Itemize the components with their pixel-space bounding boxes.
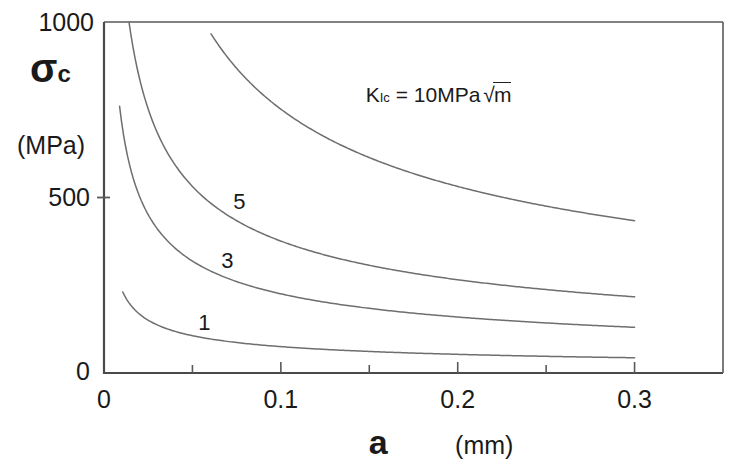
x-tick-label-0-1: 0.1	[263, 387, 298, 412]
y-tick-label-0: 0	[76, 359, 90, 384]
x-axis-unit: (mm)	[455, 433, 513, 458]
curve-k-5	[129, 22, 635, 297]
sqrt-radicand: m	[493, 82, 512, 106]
axis-spines	[104, 22, 723, 373]
kic-subscript: Ic	[380, 90, 390, 105]
y-tick-label-1000: 1000	[38, 10, 94, 35]
kic-annotation: KIc = 10MPa√m	[366, 84, 512, 105]
curve-label-5: 5	[233, 191, 245, 213]
x-tick-label-0: 0	[97, 387, 111, 412]
curve-label-3: 3	[221, 250, 233, 272]
chart-figure: 1000 500 0 σc (MPa) 0 0.1 0.2 0.3 a (mm)…	[0, 0, 739, 469]
x-tick-label-0-2: 0.2	[440, 387, 475, 412]
x-tick-label-0-3: 0.3	[617, 387, 652, 412]
kic-symbol: K	[366, 83, 380, 106]
kic-value: = 10MPa	[390, 83, 480, 106]
y-axis-symbol: σ	[30, 46, 57, 90]
x-axis-title: a	[369, 425, 388, 459]
curve-k-3	[120, 106, 635, 327]
y-axis-symbol-subscript: c	[57, 60, 70, 87]
curve-label-1: 1	[198, 312, 210, 334]
y-axis-unit: (MPa)	[17, 133, 85, 158]
sqrt-icon: √m	[483, 83, 511, 106]
y-tick-label-500: 500	[48, 185, 90, 210]
y-axis-title: σc	[30, 48, 71, 88]
curve-k-10	[211, 34, 635, 221]
